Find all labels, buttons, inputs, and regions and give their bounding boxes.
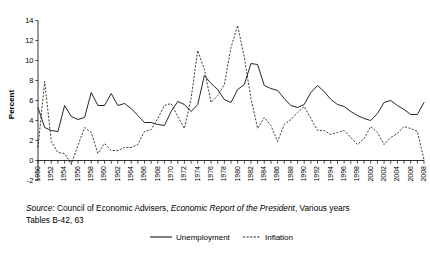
- y-axis-title: Percent: [7, 89, 16, 119]
- x-tick-label: 1950: [34, 166, 41, 182]
- source-note: Source: Council of Economic Advisers, Ec…: [26, 203, 426, 226]
- series-line-inflation: [38, 26, 424, 165]
- x-tick-label: 2000: [367, 166, 374, 182]
- y-tick-label: 12: [25, 36, 33, 45]
- x-tick-label: 1980: [234, 166, 241, 182]
- series-line-unemployment: [38, 64, 424, 132]
- x-tick-label: 1998: [353, 166, 360, 182]
- y-tick-label: 8: [29, 76, 33, 85]
- y-tick-label: -2: [27, 176, 34, 185]
- x-axis: 1950195219541956195819601962196419661968…: [34, 161, 427, 182]
- source-organization: Council of Economic Advisers,: [55, 203, 171, 213]
- x-tick-label: 2002: [380, 166, 387, 182]
- source-line-1: Source: Council of Economic Advisers, Ec…: [26, 203, 350, 213]
- x-tick-label: 1968: [154, 166, 161, 182]
- x-tick-label: 1962: [114, 166, 121, 182]
- x-axis-tick-labels: 1950195219541956195819601962196419661968…: [34, 166, 427, 182]
- x-tick-label: 1994: [327, 166, 334, 182]
- x-tick-label: 1966: [140, 166, 147, 182]
- source-suffix: , Various years: [295, 203, 350, 213]
- x-axis-ticks: [38, 161, 424, 164]
- source-tables: Tables B-42, 63: [26, 215, 84, 225]
- y-axis: -202468101214: [25, 16, 38, 185]
- y-axis-tick-labels: -202468101214: [25, 16, 33, 185]
- x-tick-label: 1974: [194, 166, 201, 182]
- x-tick-label: 1958: [87, 166, 94, 182]
- legend-label-inflation: Inflation: [265, 233, 293, 242]
- y-tick-label: 4: [29, 116, 33, 125]
- x-tick-label: 1986: [273, 166, 280, 182]
- x-tick-label: 1972: [180, 166, 187, 182]
- x-tick-label: 1988: [287, 166, 294, 182]
- chart-figure: -202468101214 19501952195419561958196019…: [0, 0, 430, 253]
- chart-legend: Unemployment Inflation: [150, 233, 293, 242]
- x-tick-label: 1990: [300, 166, 307, 182]
- x-tick-label: 1964: [127, 166, 134, 182]
- y-tick-label: 10: [25, 56, 33, 65]
- chart-series: [38, 26, 424, 165]
- x-tick-label: 1960: [100, 166, 107, 182]
- y-tick-label: 2: [29, 136, 33, 145]
- legend-label-unemployment: Unemployment: [176, 233, 231, 242]
- x-tick-label: 1996: [340, 166, 347, 182]
- x-tick-label: 1982: [247, 166, 254, 182]
- x-tick-label: 1952: [47, 166, 54, 182]
- source-label: Source: [26, 203, 52, 213]
- x-tick-label: 1978: [220, 166, 227, 182]
- x-tick-label: 1992: [313, 166, 320, 182]
- x-tick-label: 1970: [167, 166, 174, 182]
- source-publication: Economic Report of the President: [171, 203, 295, 213]
- y-tick-label: 0: [29, 156, 33, 165]
- x-tick-label: 1976: [207, 166, 214, 182]
- x-tick-label: 2008: [420, 166, 427, 182]
- x-tick-label: 2004: [393, 166, 400, 182]
- x-tick-label: 1954: [60, 166, 67, 182]
- x-tick-label: 1984: [260, 166, 267, 182]
- y-tick-label: 6: [29, 96, 33, 105]
- x-tick-label: 2006: [407, 166, 414, 182]
- x-tick-label: 1956: [74, 166, 81, 182]
- y-tick-label: 14: [25, 16, 33, 25]
